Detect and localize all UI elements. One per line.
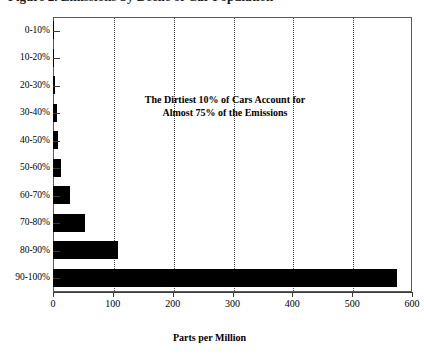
x-axis-tick-0: [53, 292, 54, 297]
x-axis-label-400: 400: [272, 298, 312, 309]
x-axis-label-0: 0: [33, 298, 73, 309]
bar-row: [53, 182, 412, 210]
y-axis-label-60-70%: 60-70%: [0, 190, 50, 200]
y-axis-tick-60-70%: [53, 196, 60, 197]
y-axis-label-10-20%: 10-20%: [0, 52, 50, 62]
y-axis-tick-10-20%: [53, 58, 60, 59]
y-axis-tick-20-30%: [53, 86, 60, 87]
y-axis-label-90-100%: 90-100%: [0, 272, 50, 282]
bar-row: [53, 17, 412, 45]
x-axis-label-500: 500: [332, 298, 372, 309]
x-axis-tick-400: [292, 292, 293, 297]
x-axis-label-600: 600: [392, 298, 424, 309]
chart-annotation-line-1: The Dirtiest 10% of Cars Account for: [110, 93, 340, 106]
x-axis-tick-300: [233, 292, 234, 297]
y-axis-tick-70-80%: [53, 223, 60, 224]
x-axis-label-200: 200: [153, 298, 193, 309]
bar-row: [53, 155, 412, 183]
y-axis-label-70-80%: 70-80%: [0, 217, 50, 227]
y-axis-tick-90-100%: [53, 278, 60, 279]
x-axis-tick-500: [352, 292, 353, 297]
y-axis-tick-0-10%: [53, 31, 60, 32]
y-axis-tick-30-40%: [53, 113, 60, 114]
x-axis-tick-200: [173, 292, 174, 297]
bar-row: [53, 45, 412, 73]
x-axis-tick-600: [412, 292, 413, 297]
y-axis-tick-40-50%: [53, 141, 60, 142]
y-axis-tick-80-90%: [53, 251, 60, 252]
chart-annotation-line-2: Almost 75% of the Emissions: [110, 106, 340, 119]
x-axis-label-100: 100: [93, 298, 133, 309]
bar-row: [53, 237, 412, 265]
bar-row: [53, 127, 412, 155]
y-axis-label-30-40%: 30-40%: [0, 107, 50, 117]
bar-80-90%: [53, 241, 118, 259]
bar-series: [53, 17, 412, 292]
y-axis-label-40-50%: 40-50%: [0, 135, 50, 145]
bar-row: [53, 210, 412, 238]
y-axis-label-50-60%: 50-60%: [0, 162, 50, 172]
x-axis-tick-100: [113, 292, 114, 297]
y-axis-labels: 0-10%10-20%20-30%30-40%40-50%50-60%60-70…: [0, 17, 50, 292]
y-axis-tick-50-60%: [53, 168, 60, 169]
x-axis-title: Parts per Million: [0, 332, 419, 343]
y-axis-label-0-10%: 0-10%: [0, 25, 50, 35]
chart-annotation: The Dirtiest 10% of Cars Account for Alm…: [110, 93, 340, 119]
y-axis-label-80-90%: 80-90%: [0, 245, 50, 255]
x-axis-label-300: 300: [213, 298, 253, 309]
bar-90-100%: [53, 269, 397, 287]
bar-row: [53, 265, 412, 293]
y-axis-label-20-30%: 20-30%: [0, 80, 50, 90]
